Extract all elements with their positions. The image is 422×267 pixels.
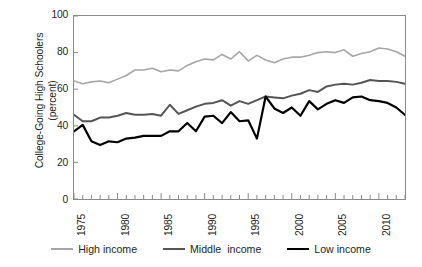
- legend-swatch-icon: [287, 248, 309, 250]
- series-line-1: [74, 48, 405, 84]
- y-tick-label: 100: [42, 10, 68, 20]
- legend-item[interactable]: Middle income: [163, 243, 261, 255]
- x-tick-label: 1990: [208, 214, 218, 236]
- x-tick-label: 1975: [77, 214, 87, 236]
- series-line-3: [74, 97, 405, 145]
- x-tick-label: 1985: [164, 214, 174, 236]
- plot-area: [73, 15, 406, 200]
- legend-swatch-icon: [163, 248, 185, 250]
- legend-label: High income: [78, 243, 137, 255]
- x-axis-tick-labels: 19751980198519901995200020052010: [73, 200, 406, 240]
- legend-label: Middle income: [190, 243, 261, 255]
- legend-item[interactable]: Low income: [287, 243, 371, 255]
- y-tick-label: 40: [42, 121, 68, 131]
- chart-figure: College-Going High Schoolers (percent) 0…: [0, 0, 422, 267]
- y-tick-label: 60: [42, 84, 68, 94]
- x-tick-label: 1980: [121, 214, 131, 236]
- legend-swatch-icon: [51, 248, 73, 250]
- x-tick-label: 2000: [295, 214, 305, 236]
- y-tick-label: 20: [42, 158, 68, 168]
- chart-legend: High incomeMiddle incomeLow income: [0, 243, 422, 255]
- x-tick-label: 2005: [338, 214, 348, 236]
- series-canvas: [74, 16, 405, 199]
- legend-item[interactable]: High income: [51, 243, 137, 255]
- y-tick-label: 0: [42, 195, 68, 205]
- y-tick-label: 80: [42, 47, 68, 57]
- x-tick-label: 2010: [382, 214, 392, 236]
- series-line-2: [74, 80, 405, 121]
- x-tick-label: 1995: [251, 214, 261, 236]
- y-axis-tick-labels: 020406080100: [40, 0, 68, 220]
- legend-label: Low income: [314, 243, 371, 255]
